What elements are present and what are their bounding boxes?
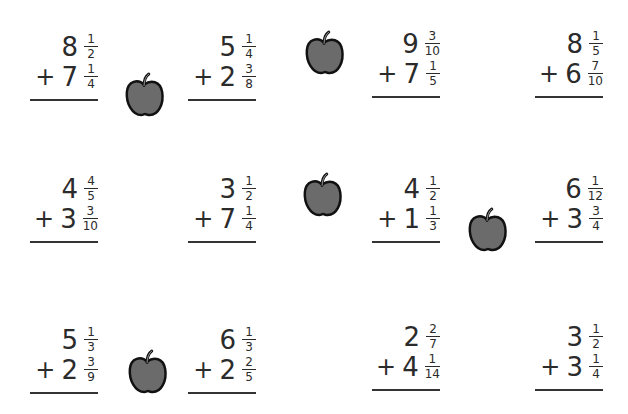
- addend-b-whole: 2: [61, 357, 78, 383]
- answer-line: [372, 389, 440, 391]
- problem-2: 514 +238: [188, 33, 256, 103]
- plus-sign: +: [34, 207, 54, 231]
- addend-a-fraction: 27: [426, 323, 440, 350]
- addend-b-whole: 2: [219, 64, 236, 90]
- plus-sign: +: [35, 65, 55, 89]
- addend-a-whole: 6: [565, 176, 582, 202]
- problem-6: 312 +714: [188, 175, 256, 245]
- addend-a-fraction: 14: [242, 33, 256, 60]
- addend-a-fraction: 15: [589, 30, 603, 57]
- problem-10: 613 +225: [188, 326, 256, 396]
- addend-a-whole: 8: [61, 34, 78, 60]
- addend-a-whole: 3: [219, 176, 236, 202]
- addend-a-fraction: 112: [588, 175, 603, 202]
- answer-line: [372, 241, 440, 243]
- answer-line: [372, 96, 440, 98]
- answer-line: [30, 241, 98, 243]
- addend-b-whole: 7: [403, 61, 420, 87]
- addend-b-fraction: 114: [425, 353, 440, 380]
- addend-a-fraction: 12: [426, 175, 440, 202]
- apple-icon: [302, 172, 344, 218]
- addend-b-whole: 3: [566, 354, 583, 380]
- answer-line: [188, 241, 256, 243]
- addend-a-fraction: 13: [84, 326, 98, 353]
- plus-sign: +: [193, 65, 213, 89]
- addend-b-whole: 4: [402, 354, 419, 380]
- answer-line: [30, 99, 98, 101]
- addend-b-whole: 1: [403, 206, 420, 232]
- addend-b-fraction: 38: [242, 63, 256, 90]
- addend-b-whole: 3: [566, 206, 583, 232]
- answer-line: [188, 99, 256, 101]
- plus-sign: +: [540, 207, 560, 231]
- addend-a-fraction: 45: [84, 175, 98, 202]
- problem-5: 445 +3310: [30, 175, 98, 245]
- addend-a-whole: 9: [402, 31, 419, 57]
- answer-line: [188, 392, 256, 394]
- addend-b-fraction: 34: [589, 205, 603, 232]
- addend-b-whole: 7: [61, 64, 78, 90]
- addend-b-fraction: 14: [84, 63, 98, 90]
- answer-line: [535, 96, 603, 98]
- problem-8: 6112 +334: [535, 175, 603, 245]
- addend-b-fraction: 310: [83, 205, 98, 232]
- addend-b-fraction: 13: [426, 205, 440, 232]
- addend-a-whole: 5: [219, 34, 236, 60]
- plus-sign: +: [540, 355, 560, 379]
- addend-b-fraction: 39: [84, 356, 98, 383]
- addend-b-fraction: 25: [242, 356, 256, 383]
- addend-b-whole: 7: [219, 206, 236, 232]
- addend-a-fraction: 12: [242, 175, 256, 202]
- addend-a-whole: 6: [219, 327, 236, 353]
- answer-line: [30, 392, 98, 394]
- plus-sign: +: [539, 62, 559, 86]
- addend-a-whole: 4: [61, 176, 78, 202]
- addend-b-fraction: 15: [426, 60, 440, 87]
- addend-b-fraction: 710: [588, 60, 603, 87]
- problem-12: 312 +314: [535, 323, 603, 393]
- addend-a-whole: 8: [566, 31, 583, 57]
- problem-4: 815 +6710: [535, 30, 603, 100]
- addend-a-fraction: 12: [84, 33, 98, 60]
- apple-icon: [467, 207, 509, 253]
- problem-11: 227 +4114: [372, 323, 440, 393]
- addend-b-fraction: 14: [589, 353, 603, 380]
- addend-a-fraction: 12: [589, 323, 603, 350]
- addend-b-whole: 6: [565, 61, 582, 87]
- plus-sign: +: [377, 62, 397, 86]
- apple-icon: [127, 349, 169, 395]
- addend-a-whole: 2: [403, 324, 420, 350]
- problem-7: 412 +113: [372, 175, 440, 245]
- apple-icon: [304, 30, 346, 76]
- plus-sign: +: [193, 207, 213, 231]
- apple-icon: [124, 72, 166, 118]
- addend-b-whole: 2: [219, 357, 236, 383]
- plus-sign: +: [377, 207, 397, 231]
- addend-a-whole: 4: [403, 176, 420, 202]
- plus-sign: +: [35, 358, 55, 382]
- plus-sign: +: [376, 355, 396, 379]
- answer-line: [535, 389, 603, 391]
- addend-b-fraction: 14: [242, 205, 256, 232]
- addend-a-whole: 5: [61, 327, 78, 353]
- plus-sign: +: [193, 358, 213, 382]
- problem-9: 513 +239: [30, 326, 98, 396]
- addend-a-whole: 3: [566, 324, 583, 350]
- problem-1: 812 +714: [30, 33, 98, 103]
- problem-3: 9310 +715: [372, 30, 440, 100]
- addend-a-fraction: 310: [425, 30, 440, 57]
- addend-b-whole: 3: [60, 206, 77, 232]
- answer-line: [535, 241, 603, 243]
- addend-a-fraction: 13: [242, 326, 256, 353]
